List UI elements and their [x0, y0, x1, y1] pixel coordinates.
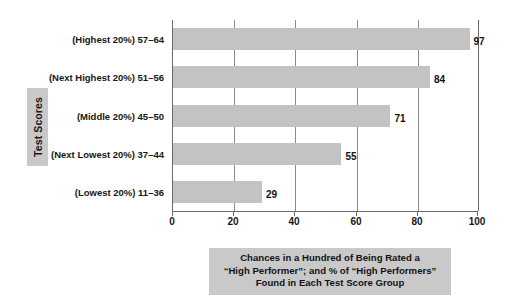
bar-2 — [173, 105, 390, 127]
caption-line-3: Found in Each Test Score Group — [215, 277, 445, 290]
caption-line-2: “High Performer”; and % of “High Perform… — [215, 265, 445, 278]
xtick-label-0: 0 — [169, 216, 175, 227]
category-label-3: (Next Lowest 20%) 37–44 — [0, 149, 164, 160]
bar-value-3: 55 — [346, 151, 357, 162]
bar-1 — [173, 66, 430, 88]
category-label-2: (Middle 20%) 45–50 — [0, 111, 164, 122]
x-axis-caption-box: Chances in a Hundred of Being Rated a “H… — [209, 248, 451, 295]
category-label-4: (Lowest 20%) 11–36 — [0, 187, 164, 198]
bar-3 — [173, 143, 341, 165]
xtick-label-80: 80 — [411, 216, 422, 227]
bar-0 — [173, 28, 470, 50]
category-label-1: (Next Highest 20%) 51–56 — [0, 72, 164, 83]
bar-value-4: 29 — [266, 189, 277, 200]
bar-chart: Test Scores (Highest 20%) 57–64 (Next Hi… — [0, 0, 513, 299]
bar-value-2: 71 — [395, 113, 406, 124]
caption-line-1: Chances in a Hundred of Being Rated a — [215, 252, 445, 265]
xtick-label-40: 40 — [288, 216, 299, 227]
bar-4 — [173, 181, 262, 203]
xtick-label-60: 60 — [350, 216, 361, 227]
xtick-label-100: 100 — [469, 216, 486, 227]
xtick-label-20: 20 — [227, 216, 238, 227]
bar-value-1: 84 — [434, 74, 445, 85]
category-label-0: (Highest 20%) 57–64 — [0, 34, 164, 45]
gridline-100 — [478, 20, 479, 211]
plot-area: 97 84 71 55 29 — [172, 20, 478, 212]
bar-value-0: 97 — [474, 36, 485, 47]
category-label-group: (Highest 20%) 57–64 (Next Highest 20%) 5… — [50, 20, 168, 212]
